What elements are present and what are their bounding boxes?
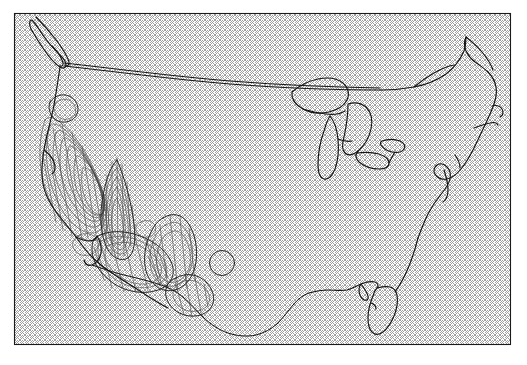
hatch-fill-layer	[15, 14, 511, 345]
crosshatch-background	[15, 14, 511, 345]
contour-map-figure	[0, 0, 527, 365]
map-canvas	[0, 0, 527, 365]
